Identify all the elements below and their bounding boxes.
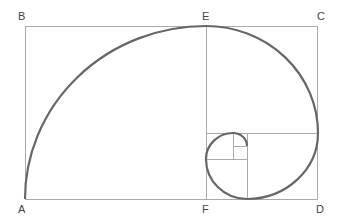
label-f: F xyxy=(202,204,209,215)
golden-spiral xyxy=(25,26,318,199)
golden-spiral-diagram xyxy=(0,0,340,222)
label-e: E xyxy=(202,11,209,22)
label-b: B xyxy=(18,11,25,22)
label-c: C xyxy=(317,11,325,22)
label-d: D xyxy=(316,204,324,215)
label-a: A xyxy=(18,204,25,215)
rectangle-grid xyxy=(26,26,319,200)
